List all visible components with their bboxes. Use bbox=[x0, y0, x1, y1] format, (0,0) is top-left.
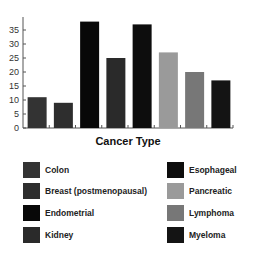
y-tick-label: 10 bbox=[9, 95, 19, 105]
bar-kidney bbox=[106, 58, 125, 128]
legend-item-myeloma: Myeloma bbox=[167, 227, 225, 243]
y-axis: 05101520253035 bbox=[9, 17, 26, 133]
legend-label: Myeloma bbox=[189, 230, 225, 240]
legend-swatch bbox=[23, 183, 40, 199]
x-axis-label: Cancer Type bbox=[95, 135, 160, 147]
legend-swatch bbox=[23, 227, 40, 243]
legend-item-lymphoma: Lymphoma bbox=[167, 205, 234, 221]
bars bbox=[28, 22, 231, 128]
bar-myeloma bbox=[211, 80, 230, 128]
bar-lymphoma bbox=[185, 72, 204, 128]
y-tick-label: 25 bbox=[9, 53, 19, 63]
legend-item-breast: Breast (postmenopausal) bbox=[23, 183, 147, 199]
bar-endometrial bbox=[80, 22, 99, 128]
legend-label: Kidney bbox=[45, 230, 73, 240]
legend-item-esophageal: Esophageal bbox=[167, 162, 237, 178]
legend-swatch bbox=[23, 162, 40, 178]
legend-swatch bbox=[167, 162, 184, 178]
y-tick-label: 35 bbox=[9, 25, 19, 35]
legend-label: Colon bbox=[45, 165, 69, 175]
bar-pancreatic bbox=[159, 52, 178, 128]
legend-item-pancreatic: Pancreatic bbox=[167, 183, 232, 199]
bar-chart: 05101520253035 Cancer Type bbox=[0, 0, 253, 150]
legend-swatch bbox=[167, 205, 184, 221]
bar-esophageal bbox=[133, 24, 152, 128]
legend-label: Esophageal bbox=[189, 165, 237, 175]
y-tick-label: 20 bbox=[9, 67, 19, 77]
y-tick-label: 30 bbox=[9, 39, 19, 49]
legend-swatch bbox=[167, 227, 184, 243]
legend-label: Pancreatic bbox=[189, 186, 232, 196]
legend-swatch bbox=[23, 205, 40, 221]
y-tick-label: 5 bbox=[14, 109, 19, 119]
y-tick-label: 0 bbox=[14, 123, 19, 133]
legend-item-colon: Colon bbox=[23, 162, 69, 178]
legend-label: Endometrial bbox=[45, 208, 94, 218]
legend-item-endometrial: Endometrial bbox=[23, 205, 94, 221]
bar-colon bbox=[28, 97, 47, 128]
bar-breast bbox=[54, 103, 73, 128]
legend-swatch bbox=[167, 183, 184, 199]
y-tick-label: 15 bbox=[9, 81, 19, 91]
legend-label: Lymphoma bbox=[189, 208, 234, 218]
legend-label: Breast (postmenopausal) bbox=[45, 186, 147, 196]
legend-item-kidney: Kidney bbox=[23, 227, 73, 243]
